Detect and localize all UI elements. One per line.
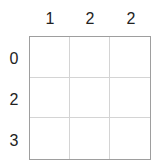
grid-cell[interactable] bbox=[30, 118, 70, 159]
grid-cell[interactable] bbox=[30, 37, 70, 78]
grid-cell[interactable] bbox=[70, 78, 110, 119]
column-clue-2: 2 bbox=[70, 11, 110, 27]
grid-cell[interactable] bbox=[110, 118, 150, 159]
row-clue-3: 3 bbox=[6, 133, 22, 149]
puzzle-grid bbox=[29, 36, 151, 160]
column-clue-1: 1 bbox=[30, 11, 70, 27]
row-clue-1: 0 bbox=[6, 51, 22, 67]
grid-cell[interactable] bbox=[70, 37, 110, 78]
grid-cell[interactable] bbox=[110, 37, 150, 78]
grid-cell[interactable] bbox=[30, 78, 70, 119]
grid-cell[interactable] bbox=[110, 78, 150, 119]
grid-cell[interactable] bbox=[70, 118, 110, 159]
row-clue-2: 2 bbox=[6, 92, 22, 108]
column-clue-3: 2 bbox=[111, 11, 151, 27]
